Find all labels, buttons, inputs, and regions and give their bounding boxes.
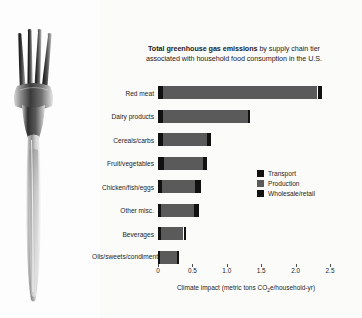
table-row[interactable]: Oils/sweets/condiments <box>158 251 179 264</box>
bar-segment-production[interactable] <box>161 204 194 217</box>
bar-segment-wholesale-retail[interactable] <box>184 227 187 240</box>
legend-item-wholesale-retail[interactable]: Wholesale/retail <box>257 190 315 197</box>
x-axis-title-pre: Climate impact (metric tons CO <box>177 284 267 291</box>
x-axis-tick-label: 2.0 <box>291 267 300 274</box>
table-row[interactable]: Beverages <box>158 227 186 240</box>
x-axis-tick-label: 0.5 <box>188 267 197 274</box>
legend-swatch-icon <box>257 170 264 177</box>
legend-label: Wholesale/retail <box>268 190 315 197</box>
category-label: Other misc. <box>120 207 154 214</box>
table-row[interactable]: Red meat <box>158 86 322 99</box>
category-label: Chicken/fish/eggs <box>102 183 154 190</box>
bar-segment-production[interactable] <box>163 86 318 99</box>
chart-title-bold: Total greenhouse gas emissions <box>148 44 257 53</box>
legend-swatch-icon <box>257 180 264 187</box>
category-label: Cereals/carbs <box>113 136 154 143</box>
bar-segment-wholesale-retail[interactable] <box>248 110 250 123</box>
bar-segment-wholesale-retail[interactable] <box>207 133 211 146</box>
bar-segment-wholesale-retail[interactable] <box>195 180 201 193</box>
legend-label: Production <box>268 180 300 187</box>
chart-panel: Total greenhouse gas emissions by supply… <box>100 0 362 318</box>
category-label: Red meat <box>125 89 154 96</box>
category-label: Fruit/vegetables <box>107 160 154 167</box>
x-axis-tick-label: 2.5 <box>326 267 335 274</box>
table-row[interactable]: Other misc. <box>158 204 199 217</box>
x-axis-tick-label: 1.0 <box>222 267 231 274</box>
bar-segment-wholesale-retail[interactable] <box>318 86 322 99</box>
figure-root: Total greenhouse gas emissions by supply… <box>0 0 362 318</box>
bar-segment-wholesale-retail[interactable] <box>203 157 208 170</box>
table-row[interactable]: Dairy products <box>158 110 250 123</box>
category-label: Beverages <box>122 230 154 237</box>
chart-title: Total greenhouse gas emissions by supply… <box>112 44 356 63</box>
chart-title-rest: by supply chain tier <box>257 44 319 53</box>
bar-segment-production[interactable] <box>160 251 177 264</box>
x-axis-title: Climate impact (metric tons CO2e/househo… <box>130 284 362 293</box>
table-row[interactable]: Chicken/fish/eggs <box>158 180 201 193</box>
category-label: Dairy products <box>111 113 154 120</box>
chart-legend: Transport Production Wholesale/retail <box>257 170 315 201</box>
table-row[interactable]: Fruit/vegetables <box>158 157 208 170</box>
bar-segment-production[interactable] <box>164 157 203 170</box>
bar-segment-wholesale-retail[interactable] <box>194 204 199 217</box>
legend-item-production[interactable]: Production <box>257 180 315 187</box>
x-axis-tick-label: 1.5 <box>257 267 266 274</box>
fork-photo-icon <box>0 0 100 318</box>
bar-segment-production[interactable] <box>163 133 207 146</box>
x-axis-title-post: e/household-yr) <box>270 284 315 291</box>
table-row[interactable]: Cereals/carbs <box>158 133 211 146</box>
bar-segment-production[interactable] <box>162 180 195 193</box>
bar-segment-wholesale-retail[interactable] <box>177 251 180 264</box>
x-axis-tick-label: 0 <box>156 267 160 274</box>
chart-subtitle: associated with household food consumpti… <box>146 54 322 63</box>
legend-item-transport[interactable]: Transport <box>257 170 315 177</box>
bar-segment-production[interactable] <box>161 227 184 240</box>
bar-segment-production[interactable] <box>163 110 248 123</box>
fork-illustration-panel <box>0 0 100 318</box>
category-label: Oils/sweets/condiments <box>92 253 154 261</box>
legend-swatch-icon <box>257 190 264 197</box>
legend-label: Transport <box>268 170 296 177</box>
